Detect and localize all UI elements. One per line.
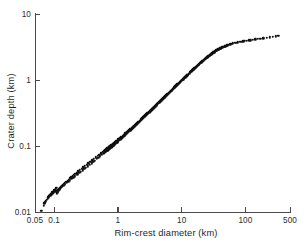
x-tick-label: 10 <box>177 216 186 225</box>
x-tick-label: 100 <box>238 216 252 225</box>
y-tick-label: 0.01 <box>15 208 31 217</box>
data-point <box>277 35 279 37</box>
data-point <box>268 36 270 38</box>
data-point <box>40 209 42 211</box>
y-tick-label: 10 <box>22 10 31 19</box>
y-tick-label: 1 <box>26 76 31 85</box>
data-point <box>42 204 44 206</box>
plot-data-area <box>35 14 290 212</box>
scatter-plot-figure: 0.050.1110100500 0.010.1110 Rim-crest di… <box>0 0 304 243</box>
data-point <box>262 37 264 39</box>
x-tick-label: 0.1 <box>48 216 60 225</box>
y-axis-title: Crater depth (km) <box>6 56 16 166</box>
x-tick-label: 1 <box>116 216 121 225</box>
x-tick-label: 500 <box>283 216 297 225</box>
y-tick-label: 0.1 <box>19 142 31 151</box>
data-point <box>259 38 261 40</box>
data-point <box>265 37 267 39</box>
x-axis-title: Rim-crest diameter (km) <box>0 228 304 238</box>
